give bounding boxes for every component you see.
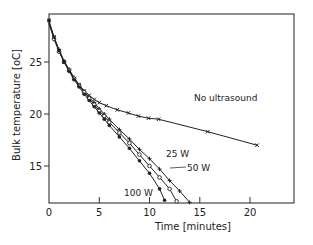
series-100-w	[49, 20, 166, 202]
x-tick-5: 5	[96, 207, 102, 218]
y-tick-labels: 25 20 15	[29, 57, 42, 172]
x-tick-20: 20	[244, 207, 257, 218]
series-25-w	[49, 23, 192, 205]
plot-frame	[49, 14, 294, 203]
y-axis	[44, 62, 49, 166]
label-50w: 50 W	[187, 163, 210, 173]
y-tick-15: 15	[29, 161, 42, 172]
series-layer	[47, 19, 259, 205]
x-axis-label: Time [minutes]	[154, 221, 231, 232]
start-point-marker	[47, 19, 51, 23]
label-100w: 100 W	[124, 188, 153, 198]
y-axis-label: Bulk temperature [oC]	[11, 49, 22, 161]
series-50-w	[49, 24, 178, 204]
label-no-ultrasound: No ultrasound	[194, 93, 257, 103]
x-tick-0: 0	[46, 207, 52, 218]
y-tick-20: 20	[29, 109, 42, 120]
x-tick-labels: 0 5 10 15 20	[46, 207, 257, 218]
label-25w: 25 W	[166, 149, 189, 159]
temperature-chart: 0 5 10 15 20 Time [minutes] 25 20 15 Bul…	[0, 0, 313, 245]
y-tick-25: 25	[29, 57, 42, 68]
label-50w-leader	[170, 167, 186, 168]
x-tick-15: 15	[193, 207, 206, 218]
x-tick-10: 10	[143, 207, 156, 218]
